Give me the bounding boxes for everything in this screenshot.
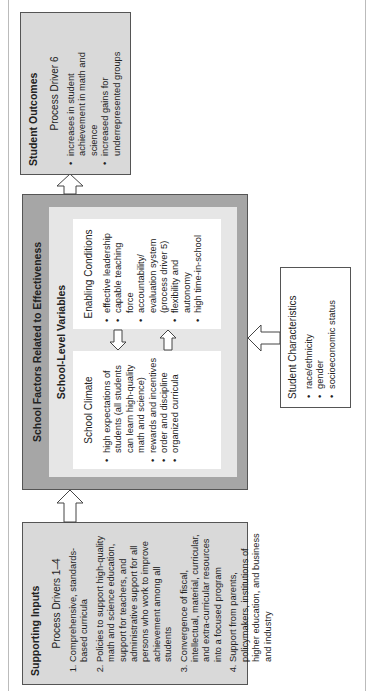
list-item: rewards and incentives	[148, 357, 159, 453]
arrow-up-icon	[247, 323, 281, 353]
list-item: order and discipline	[159, 357, 170, 453]
supporting-inputs-panel: Supporting Inputs Process Drivers 1–4 Co…	[22, 522, 248, 685]
list-item: high expectations of students (all stude…	[102, 357, 148, 453]
school-level-title: School-Level Variables	[55, 213, 67, 471]
enabling-conditions-title: Enabling Conditions	[83, 225, 94, 323]
list-item: effective leadership	[102, 225, 113, 313]
school-climate-title: School Climate	[83, 357, 94, 463]
school-climate-list: high expectations of students (all stude…	[102, 357, 182, 463]
list-item: Policies to support high-quality math an…	[95, 531, 175, 662]
arrow-right-icon	[159, 329, 177, 351]
supporting-inputs-subtitle: Process Drivers 1–4	[51, 531, 62, 676]
list-item: accountability/ evaluation system (proce…	[136, 225, 170, 313]
list-item: Convergence of fiscal, intellectual, mat…	[179, 531, 225, 662]
school-factors-box: School Factors Related to Effectiveness …	[22, 194, 248, 490]
student-characteristics-title: Student Characteristics	[287, 276, 298, 399]
student-outcomes-box: Student Outcomes Process Driver 6 increa…	[20, 12, 131, 175]
school-factors-title: School Factors Related to Effectiveness	[31, 201, 43, 483]
list-item: Comprehensive, standards-based curricula	[68, 531, 91, 662]
supporting-inputs-list: Comprehensive, standards-based curricula…	[68, 531, 274, 676]
student-outcomes-subtitle: Process Driver 6	[49, 21, 60, 166]
list-item: Support from parents, policymakers, inst…	[228, 531, 274, 662]
arrow-right-icon	[55, 489, 85, 523]
list-item: increased gains for underrepresented gro…	[100, 21, 123, 156]
divider	[8, 0, 9, 691]
list-item: race/ethnicity	[304, 276, 315, 389]
list-item: socioeconomic status	[327, 276, 338, 389]
list-item: increases in student achievement in math…	[66, 21, 100, 156]
list-item: flexibility and autonomy	[170, 225, 193, 313]
list-item: capable teaching force	[113, 225, 136, 313]
list-item: gender	[315, 276, 326, 389]
student-characteristics-list: race/ethnicity gender socioeconomic stat…	[304, 276, 338, 399]
student-outcomes-title: Student Outcomes	[27, 21, 39, 166]
student-characteristics-box: Student Characteristics race/ethnicity g…	[280, 267, 351, 408]
list-item: high time-in-school	[193, 225, 204, 313]
school-level-panel: School-Level Variables School Climate hi…	[49, 207, 237, 477]
diagram-canvas: Supporting Inputs Supporting Inputs Proc…	[0, 0, 371, 691]
enabling-conditions-list: effective leadership capable teaching fo…	[102, 225, 205, 323]
enabling-conditions-box: Enabling Conditions effective leadership…	[73, 219, 221, 329]
school-climate-box: School Climate high expectations of stud…	[73, 351, 221, 469]
divider	[365, 0, 366, 691]
list-item: organized curricula	[170, 357, 181, 453]
supporting-inputs-heading: Supporting Inputs	[29, 531, 41, 676]
arrow-right-icon	[55, 173, 85, 195]
student-outcomes-list: increases in student achievement in math…	[66, 21, 123, 166]
arrow-left-icon	[109, 329, 127, 351]
